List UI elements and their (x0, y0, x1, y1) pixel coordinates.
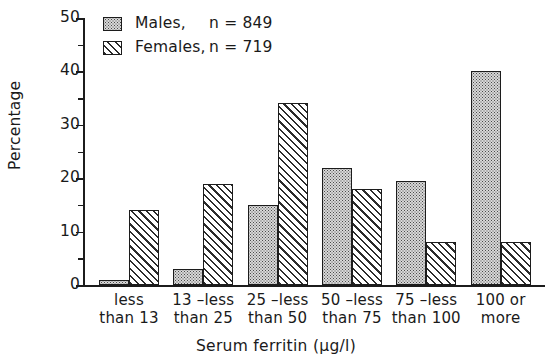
bar-group (396, 181, 456, 285)
bar-group (248, 103, 308, 285)
y-tick-minor (78, 45, 83, 47)
bar-males-6 (471, 71, 501, 285)
bar-group (471, 71, 531, 285)
y-axis-title: Percentage (6, 81, 24, 170)
bar-males-1 (99, 280, 129, 285)
y-tick-label: 10 (60, 224, 80, 240)
bar-group (99, 210, 159, 285)
x-axis-title: Serum ferritin (µg/l) (0, 337, 552, 355)
bar-females-2 (203, 184, 233, 285)
bar-males-3 (248, 205, 278, 285)
bar-males-4 (322, 168, 352, 285)
bar-males-2 (173, 269, 203, 285)
bar-group (322, 168, 382, 285)
bar-males-5 (396, 181, 426, 285)
bar-group (173, 184, 233, 285)
y-tick-minor (78, 258, 83, 260)
bar-females-4 (352, 189, 382, 285)
plot-area: 01020304050 (83, 18, 545, 285)
x-category-label-line: more (449, 310, 552, 328)
chart-figure: Males, n = 849 Females, n = 719 Percenta… (0, 0, 552, 363)
bar-females-1 (129, 210, 159, 285)
bar-females-6 (501, 242, 531, 285)
y-tick-label: 50 (60, 10, 80, 26)
y-tick-minor (78, 152, 83, 154)
x-category-label-line: 100 or (449, 292, 552, 310)
y-tick-label: 30 (60, 117, 80, 133)
y-tick-minor (78, 205, 83, 207)
y-tick-label: 0 (70, 277, 80, 293)
y-tick-minor (78, 98, 83, 100)
y-tick-label: 20 (60, 170, 80, 186)
bar-females-3 (278, 103, 308, 285)
x-category-label: 100 ormore (449, 292, 552, 327)
x-axis-line (83, 285, 545, 287)
y-tick-label: 40 (60, 64, 80, 80)
bar-females-5 (426, 242, 456, 285)
